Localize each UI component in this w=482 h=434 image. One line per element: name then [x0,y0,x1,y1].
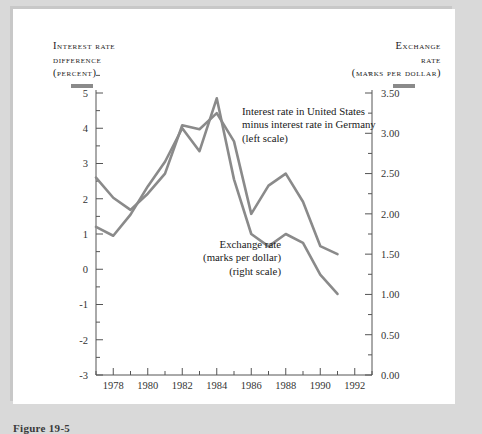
annotation-exchange-rate-line-0: Exchange rate [220,238,282,250]
x-axis-tick-label: 1982 [172,380,193,391]
y-axis-tick-label: -1 [79,299,88,310]
y-axis-tick-label: -2 [79,335,88,346]
y-axis-tick-label: 5 [83,88,88,99]
y-axis-tick-label: 3 [83,158,88,169]
annotation-interest-rate-line-2: (left scale) [242,132,288,145]
chart-svg: -3-2-10123450.000.501.001.502.002.503.00… [13,9,455,404]
y2-axis-tick-label: 2.50 [381,168,399,179]
y2-axis-tick-label: 3.00 [381,128,399,139]
x-axis-tick-label: 1992 [344,380,365,391]
y-axis-tick-label: 2 [83,194,88,205]
y2-axis-tick-label: 0.50 [381,330,399,341]
x-axis-tick-label: 1988 [275,380,296,391]
y-axis-tick-label: 4 [83,123,89,134]
annotation-exchange-rate-line-2: (right scale) [229,265,281,278]
annotation-interest-rate-line-1: minus interest rate in Germany [242,118,376,130]
y2-axis-tick-label: 3.50 [381,88,399,99]
data-line-series-1 [96,113,338,254]
x-axis-tick-label: 1978 [103,380,124,391]
figure-frame: Interest rate difference (percent) Excha… [13,9,455,404]
x-axis-tick-label: 1984 [206,380,228,391]
y2-axis-tick-label: 0.00 [381,370,399,381]
y-axis-tick-label: 0 [83,264,88,275]
x-axis-tick-label: 1980 [137,380,158,391]
annotation-interest-rate-line-0: Interest rate in United States [242,105,365,117]
annotation-exchange-rate-line-1: (marks per dollar) [203,251,281,264]
y-axis-tick-label: -3 [79,370,88,381]
x-axis-tick-label: 1986 [241,380,262,391]
x-axis-tick-label: 1990 [310,380,331,391]
y2-axis-tick-label: 1.50 [381,249,399,260]
figure-caption-text: Figure 19-5 [13,422,455,434]
y2-axis-tick-label: 1.00 [381,289,399,300]
chart-plot-area: -3-2-10123450.000.501.001.502.002.503.00… [13,9,455,404]
y2-axis-tick-label: 2.00 [381,209,399,220]
figure-caption: Figure 19-5 [13,408,455,434]
y-axis-tick-label: 1 [83,229,88,240]
